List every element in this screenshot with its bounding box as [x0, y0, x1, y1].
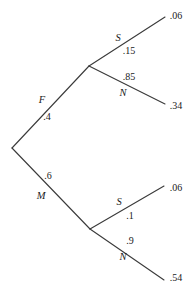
branch-label-f-s: S — [115, 33, 120, 44]
branch-label-m-s: S — [116, 197, 121, 208]
branch-probability-m-n: .9 — [126, 236, 134, 246]
outcome-value-m-s: .06 — [170, 183, 183, 193]
outcome-value-m-n: .54 — [170, 273, 183, 283]
branch-probability-m-s: .1 — [126, 211, 134, 221]
outcome-value-f-n: .34 — [170, 101, 183, 111]
branch-line-f-to-s — [89, 17, 165, 66]
branch-probability-m: .6 — [44, 171, 52, 181]
branch-label-f-n: N — [119, 88, 126, 99]
branch-probability-f: .4 — [43, 112, 51, 122]
branch-line-root-to-m — [12, 148, 90, 229]
branch-probability-f-s: .15 — [123, 46, 136, 56]
branch-line-m-to-s — [90, 186, 164, 229]
branch-label-f: F — [39, 95, 45, 106]
branch-label-m: M — [37, 191, 46, 202]
branch-probability-f-n: .85 — [123, 72, 136, 82]
branch-line-root-to-f — [12, 66, 89, 148]
branch-label-m-n: N — [119, 252, 126, 263]
tree-branches-svg — [0, 0, 196, 294]
probability-tree-diagram: F .4 M .6 S .15 .85 N S .1 .9 N .06 .34 … — [0, 0, 196, 294]
outcome-value-f-s: .06 — [170, 11, 183, 21]
